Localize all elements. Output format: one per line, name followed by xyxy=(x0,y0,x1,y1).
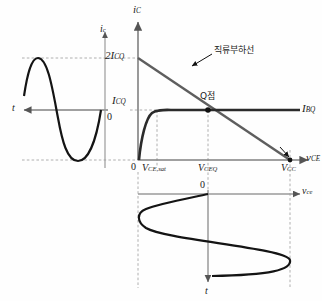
ic-axis-label: iC xyxy=(133,4,141,15)
x-tick-vcesat: VCE,sat xyxy=(142,163,166,173)
origin-label-bottom: 0 xyxy=(200,180,205,190)
load-line-callout-arrow xyxy=(192,54,212,66)
diagram-svg xyxy=(0,0,322,301)
q-point-label: Q점 xyxy=(200,92,215,101)
ic-axis-label-left: ic xyxy=(100,24,106,34)
t-axis-label-left: t xyxy=(12,103,15,113)
vce-axis-label: vCE xyxy=(306,152,320,163)
y-tick-icq: ICQ xyxy=(112,95,126,106)
origin-label-left: 0 xyxy=(107,112,112,122)
collector-voltage-waveform xyxy=(139,194,290,276)
x-tick-vceq: VCEQ xyxy=(198,163,217,173)
vce-axis-label-bottom: vce xyxy=(302,186,312,196)
guide-lines xyxy=(22,58,290,288)
x-tick-vcc: VCC xyxy=(281,163,296,173)
t-axis-label-bottom: t xyxy=(205,286,208,296)
y-tick-2icq: 2ICQ xyxy=(105,50,124,61)
dc-load-line-label: 직류부하선 xyxy=(214,46,254,55)
ibq-output-curve xyxy=(139,110,300,160)
figure-canvas: iC vCE 2ICQ ICQ 0 VCE,sat VCEQ VCC 직류부하선… xyxy=(0,0,322,301)
output-plot-axes xyxy=(138,22,308,160)
ibq-curve-label: IBQ xyxy=(302,103,315,114)
q-point-marker xyxy=(205,107,211,113)
vcc-intersection-marker xyxy=(288,158,293,163)
origin-label-main: 0 xyxy=(131,162,136,172)
